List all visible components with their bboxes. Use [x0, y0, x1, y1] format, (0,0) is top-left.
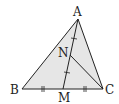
label-m: M — [58, 91, 70, 104]
label-n: N — [58, 46, 69, 60]
label-a: A — [72, 5, 82, 19]
label-b: B — [10, 83, 19, 97]
diagram-svg: A B C M N — [0, 0, 119, 104]
label-c: C — [105, 83, 114, 97]
triangle-diagram: A B C M N — [0, 0, 119, 104]
